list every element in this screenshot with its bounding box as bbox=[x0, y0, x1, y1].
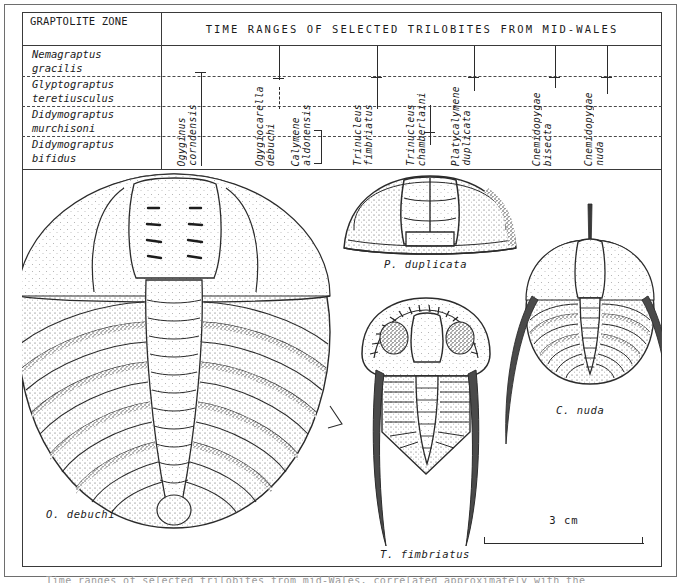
taxon-line1: Ogygiocarella bbox=[254, 86, 265, 166]
zone-header-line1: GRAPTOLITE bbox=[30, 15, 95, 27]
range-bar-ogygiocarella-debuchi bbox=[279, 46, 280, 80]
taxon-line1: Trinucleus bbox=[352, 104, 363, 166]
zone-name-line1: Didymograptus bbox=[32, 138, 162, 152]
zone-column-header: GRAPTOLITE ZONE bbox=[22, 12, 162, 46]
caption-t-fimbriatus: T. fimbriatus bbox=[380, 548, 470, 560]
figure-caption-clipped: Time ranges of selected trilobites from … bbox=[46, 575, 666, 583]
zone-name-line1: Glyptograptus bbox=[32, 78, 162, 92]
zone-name-line2: bifidus bbox=[32, 152, 162, 166]
graptolite-zone-column: GRAPTOLITE ZONE Nemagraptus gracilis Gly… bbox=[22, 12, 162, 170]
specimen-p-duplicata bbox=[344, 176, 516, 254]
zone-name-line1: Nemagraptus bbox=[32, 48, 162, 62]
scale-bar bbox=[484, 536, 644, 544]
zone-header-line2: ZONE bbox=[102, 15, 128, 27]
range-bar-cnemidopygae-bisecta bbox=[555, 46, 556, 88]
taxon-line1: Calymene bbox=[290, 117, 301, 166]
taxon-line2: corndensis bbox=[187, 104, 198, 166]
taxon-line2: nuda bbox=[594, 141, 605, 166]
range-bar-cnemidopygae-nuda bbox=[607, 46, 608, 94]
range-bars-area: Ogyginus corndensis Ogygiocarella debuch… bbox=[162, 46, 662, 170]
taxon-line1: Cnemidopygae bbox=[583, 92, 594, 166]
zone-name-line2: gracilis bbox=[32, 62, 162, 76]
taxon-label-platycalymene-duplicata: Platycalymene duplicata bbox=[450, 46, 474, 166]
taxon-label-calymene-aldonensis: Calymene aldonensis bbox=[290, 46, 314, 166]
zone-name-line1: Didymograptus bbox=[32, 108, 162, 122]
scale-bar-label: 3 cm bbox=[484, 514, 644, 526]
zone-row-nemagraptus-gracilis: Nemagraptus gracilis bbox=[22, 48, 162, 75]
zone-row-glyptograptus-teretiusculus: Glyptograptus teretiusculus bbox=[22, 78, 162, 105]
zone-name-line2: murchisoni bbox=[32, 122, 162, 136]
taxon-label-ogygiocarella-debuchi: Ogygiocarella debuchi bbox=[254, 46, 278, 166]
taxon-line1: Platycalymene bbox=[450, 86, 461, 166]
taxon-line1: Trinucleus bbox=[405, 104, 416, 166]
range-bracket-calymene-aldonensis bbox=[314, 130, 322, 164]
range-chart: GRAPTOLITE ZONE Nemagraptus gracilis Gly… bbox=[22, 12, 662, 170]
taxon-line2: fimbriatus bbox=[363, 104, 374, 166]
specimen-plate: O. debuchi P. duplicata T. fimbriatus C.… bbox=[22, 170, 662, 567]
zone-row-didymograptus-murchisoni: Didymograptus murchisoni bbox=[22, 108, 162, 135]
zone-name-line2: teretiusculus bbox=[32, 92, 162, 106]
range-bar-ogyginus-corndensis bbox=[201, 72, 202, 166]
taxon-line1: Ogyginus bbox=[176, 117, 187, 166]
range-bar-platycalymene-duplicata bbox=[474, 46, 475, 91]
range-chart-title: TIME RANGES OF SELECTED TRILOBITES FROM … bbox=[162, 12, 662, 46]
figure-page: GRAPTOLITE ZONE Nemagraptus gracilis Gly… bbox=[0, 0, 685, 583]
taxon-line2: chamberlaini bbox=[416, 92, 427, 166]
scale-bar-tick-right bbox=[642, 537, 643, 544]
scale-bar-rule bbox=[484, 543, 644, 544]
zone-row-didymograptus-bifidus: Didymograptus bifidus bbox=[22, 138, 162, 165]
range-bar-dashed-ogygiocarella-debuchi bbox=[279, 87, 280, 109]
specimen-illustrations bbox=[22, 170, 662, 567]
caption-c-nuda: C. nuda bbox=[556, 404, 604, 416]
range-bar-trinucleus-chamberlaini bbox=[430, 105, 431, 145]
taxon-line2: debuchi bbox=[265, 123, 276, 166]
caption-p-duplicata: P. duplicata bbox=[384, 258, 467, 270]
taxon-label-ogyginus-corndensis: Ogyginus corndensis bbox=[176, 46, 200, 166]
specimen-t-fimbriatus bbox=[362, 298, 490, 546]
taxon-line2: aldonensis bbox=[301, 104, 312, 166]
taxon-line2: bisecta bbox=[542, 123, 553, 166]
taxon-label-cnemidopygae-nuda: Cnemidopygae nuda bbox=[583, 46, 607, 166]
taxon-label-cnemidopygae-bisecta: Cnemidopygae bisecta bbox=[531, 46, 555, 166]
taxon-line2: duplicata bbox=[461, 110, 472, 166]
taxon-line1: Cnemidopygae bbox=[531, 92, 542, 166]
caption-o-debuchi: O. debuchi bbox=[46, 508, 115, 520]
taxon-label-trinucleus-fimbriatus: Trinucleus fimbriatus bbox=[352, 46, 376, 166]
taxon-label-trinucleus-chamberlaini: Trinucleus chamberlaini bbox=[405, 46, 429, 166]
specimen-o-debuchi bbox=[22, 174, 342, 528]
